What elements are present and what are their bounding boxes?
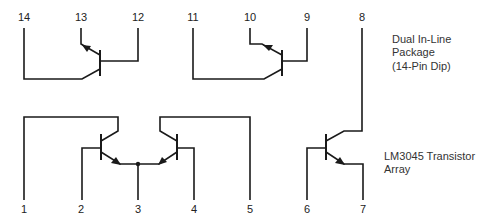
- pin-label-9: 9: [304, 11, 310, 23]
- q3-emitter-arrow-icon: [111, 157, 121, 165]
- schematic-diagram: 14 13 12 11 10 9 8 1 2 3 4 5 6 7: [0, 0, 482, 217]
- transistor-q2: [193, 28, 307, 79]
- q2-base-wire: [282, 28, 307, 61]
- transistor-q5: [307, 28, 363, 200]
- q5-collector-wire: [326, 28, 362, 141]
- q5-base-wire: [307, 148, 326, 200]
- pin-label-4: 4: [191, 203, 197, 215]
- q3-emitter-wire: [101, 152, 138, 164]
- pin-label-5: 5: [247, 203, 253, 215]
- q4-collector-wire: [160, 117, 250, 200]
- package-note-line-2: Package: [392, 46, 435, 58]
- pin-label-14: 14: [18, 11, 30, 23]
- part-note-line-1: LM3045 Transistor: [384, 150, 475, 162]
- transistor-q4: [138, 117, 250, 200]
- pin-label-8: 8: [359, 11, 365, 23]
- package-note-line-1: Dual In-Line: [392, 33, 451, 45]
- q4-base-wire: [177, 148, 194, 200]
- pin-label-11: 11: [187, 11, 198, 23]
- q3-base-wire: [82, 148, 101, 200]
- q4-emitter-arrow-icon: [158, 157, 167, 165]
- pin-label-2: 2: [78, 203, 84, 215]
- q2-emitter-wire: [250, 28, 282, 55]
- q5-emitter-wire: [326, 152, 363, 200]
- package-note-line-3: (14-Pin Dip): [392, 60, 451, 72]
- pin-label-3: 3: [135, 203, 141, 215]
- pin-label-6: 6: [304, 203, 310, 215]
- q2-collector-wire: [193, 28, 282, 79]
- part-note-line-2: Array: [384, 163, 411, 175]
- pin-label-10: 10: [244, 11, 256, 23]
- transistor-q1: [24, 28, 138, 79]
- q1-collector-wire: [24, 28, 100, 79]
- pin-label-7: 7: [360, 203, 366, 215]
- pin-label-12: 12: [132, 11, 144, 23]
- q1-emitter-wire: [81, 28, 100, 55]
- q1-base-wire: [100, 28, 138, 61]
- pin-label-13: 13: [75, 11, 87, 23]
- q4-emitter-wire: [138, 152, 177, 164]
- transistor-q3: [24, 117, 138, 200]
- q3-collector-wire: [24, 117, 118, 200]
- pin-label-1: 1: [21, 203, 27, 215]
